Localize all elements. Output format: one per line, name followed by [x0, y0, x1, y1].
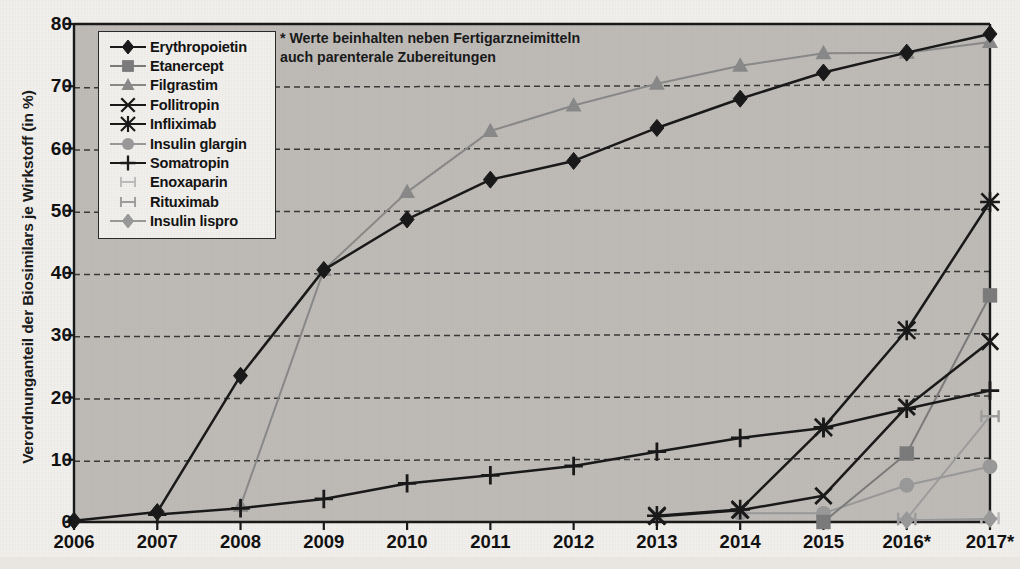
- y-axis-title: Verordnunganteil der Biosimilars je Wirk…: [19, 17, 37, 537]
- legend-label: Infliximab: [150, 116, 216, 132]
- x-tick-label: 2009: [303, 533, 344, 552]
- legend-label: Etanercept: [150, 58, 223, 74]
- x-tick-label: 2014: [720, 533, 761, 552]
- legend-marker-plus-icon: [106, 154, 150, 172]
- x-tick-label: 2008: [220, 533, 261, 552]
- legend-item-follitropin[interactable]: Follitropin: [99, 95, 275, 114]
- legend-label: Follitropin: [150, 97, 219, 113]
- legend-item-erythropoietin[interactable]: Erythropoietin: [99, 37, 275, 56]
- legend-symbol: [110, 214, 146, 228]
- x-tick-label: 2017*: [966, 533, 1014, 552]
- legend-symbol: [110, 79, 146, 91]
- legend-label: Filgrastim: [150, 77, 218, 93]
- legend-label: Somatropin: [150, 155, 229, 171]
- x-tick-label: 2012: [553, 533, 594, 552]
- footnote-annotation: * Werte beinhalten neben Fertigarzneimit…: [280, 29, 580, 66]
- legend-item-rituximab[interactable]: Rituximab: [99, 192, 275, 211]
- chart-legend: ErythropoietinEtanerceptFilgrastimFollit…: [98, 31, 276, 239]
- legend-marker-x-icon: [106, 96, 150, 114]
- marker-square: [122, 60, 134, 72]
- legend-symbol: [110, 116, 146, 132]
- legend-symbol: [110, 60, 146, 72]
- legend-marker-ibar-icon: [106, 193, 150, 211]
- x-tick-label: 2006: [53, 533, 94, 552]
- legend-item-somatropin[interactable]: Somatropin: [99, 153, 275, 172]
- legend-label: Erythropoietin: [150, 39, 247, 55]
- x-tick-label: 2015: [803, 533, 844, 552]
- legend-marker-ibar-icon: [106, 173, 150, 191]
- legend-marker-circle-icon: [106, 135, 150, 153]
- x-tick-label: 2010: [387, 533, 428, 552]
- legend-marker-diamond-icon: [106, 212, 150, 230]
- legend-symbol: [110, 40, 146, 54]
- legend-symbol: [110, 138, 146, 150]
- legend-marker-square-icon: [106, 57, 150, 75]
- legend-symbol: [121, 177, 135, 187]
- marker-plus: [120, 155, 135, 170]
- x-tick-label: 2011: [470, 533, 510, 552]
- marker-ibar: [121, 177, 135, 187]
- legend-item-filgrastim[interactable]: Filgrastim: [99, 76, 275, 95]
- marker-ibar: [121, 197, 135, 207]
- legend-item-insulin-lispro[interactable]: Insulin lispro: [99, 212, 275, 231]
- marker-diamond: [122, 214, 133, 228]
- legend-item-etanercept[interactable]: Etanercept: [99, 56, 275, 75]
- legend-symbol: [121, 197, 135, 207]
- chart-figure: 01020304050607080 2006200720082009201020…: [0, 0, 1020, 569]
- legend-symbol: [110, 155, 146, 170]
- legend-marker-asterisk-icon: [106, 115, 150, 133]
- legend-item-insulin-glargin[interactable]: Insulin glargin: [99, 134, 275, 153]
- legend-item-infliximab[interactable]: Infliximab: [99, 115, 275, 134]
- marker-circle: [122, 138, 134, 150]
- legend-marker-triangle-icon: [106, 76, 150, 94]
- marker-diamond: [122, 40, 133, 54]
- legend-label: Insulin lispro: [150, 213, 238, 229]
- legend-label: Rituximab: [150, 194, 219, 210]
- legend-marker-diamond-icon: [106, 38, 150, 56]
- x-tick-label: 2016*: [883, 533, 931, 552]
- legend-label: Insulin glargin: [150, 136, 247, 152]
- page-bottom-margin: [0, 557, 1020, 569]
- legend-item-enoxaparin[interactable]: Enoxaparin: [99, 173, 275, 192]
- legend-symbol: [110, 98, 146, 111]
- x-tick-label: 2007: [137, 533, 178, 552]
- marker-asterisk: [120, 116, 136, 132]
- legend-label: Enoxaparin: [150, 174, 227, 190]
- x-tick-label: 2013: [636, 533, 677, 552]
